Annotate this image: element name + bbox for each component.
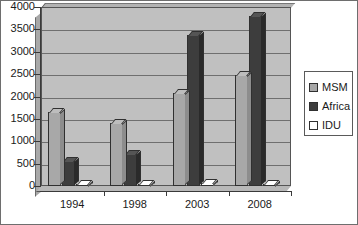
y-axis-tick (34, 164, 40, 165)
y-axis-tick (34, 119, 40, 120)
x-axis-tick (229, 191, 230, 196)
y-axis-tick (34, 97, 40, 98)
bar-idu-2008 (263, 184, 276, 186)
legend-swatch-msm (309, 83, 318, 92)
y-axis-tick-label: 0 (1, 180, 35, 191)
y-axis-tick (34, 29, 40, 30)
y-axis-tick-label: 500 (1, 158, 35, 169)
y-axis-tick-label: 3000 (1, 46, 35, 57)
y-axis-tick-label: 2000 (1, 91, 35, 102)
y-axis-tick-label: 1500 (1, 113, 35, 124)
y-axis-tick-label: 2500 (1, 68, 35, 79)
legend-label-africa: Africa (322, 101, 350, 112)
y-axis-tick (34, 74, 40, 75)
chart-legend: MSM Africa IDU (304, 71, 353, 136)
legend-item-0[interactable]: MSM (309, 78, 352, 96)
x-axis-tick (104, 191, 105, 196)
bar-msm-2008 (235, 75, 248, 186)
legend-item-2[interactable]: IDU (309, 116, 352, 134)
bar-msm-2003 (173, 93, 186, 186)
legend-item-1[interactable]: Africa (309, 97, 352, 115)
bar-idu-1998 (138, 184, 151, 186)
bar-side-face (261, 13, 266, 185)
x-axis-tick-label: 2003 (167, 198, 227, 210)
y-axis-tick-label: 4000 (1, 1, 35, 12)
y-axis-tick (34, 141, 40, 142)
x-axis-tick-label: 1998 (105, 198, 165, 210)
bar-idu-2003 (201, 183, 214, 186)
bar-msm-1998 (110, 123, 123, 186)
bar-side-face (60, 109, 65, 185)
chart-figure: 05001000150020002500300035004000 1994199… (0, 0, 358, 225)
bar-side-face (247, 72, 252, 185)
bar-side-face (136, 151, 141, 185)
y-axis-tick-label: 3500 (1, 23, 35, 34)
y-axis-tick (34, 186, 40, 187)
x-axis-tick (166, 191, 167, 196)
legend-swatch-idu (309, 121, 318, 130)
bar-idu-1994 (76, 184, 89, 186)
y-axis-tick (34, 7, 40, 8)
y-axis-tick-label: 1000 (1, 135, 35, 146)
legend-label-msm: MSM (322, 82, 348, 93)
legend-swatch-africa (309, 102, 318, 111)
bar-side-face (122, 120, 127, 185)
x-axis-tick-label: 1994 (42, 198, 102, 210)
legend-label-idu: IDU (322, 120, 341, 131)
x-axis-tick-label: 2008 (230, 198, 290, 210)
bar-side-face (199, 32, 204, 185)
bar-msm-1994 (48, 112, 61, 186)
bar-side-face (74, 158, 79, 185)
bar-side-face (185, 90, 190, 185)
x-axis-tick (291, 191, 292, 196)
y-axis-tick (34, 52, 40, 53)
